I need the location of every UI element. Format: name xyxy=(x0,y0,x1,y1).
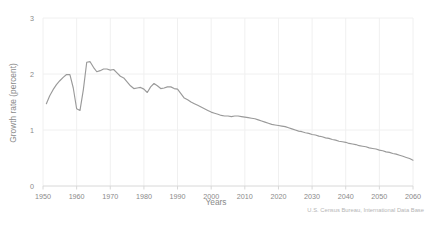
x-tick-label: 2040 xyxy=(338,192,354,201)
x-tick-label: 2060 xyxy=(405,192,421,201)
x-axis-title: Years xyxy=(205,197,226,207)
growth-rate-chart: 1950196019701980199020002010202020302040… xyxy=(0,0,432,225)
x-tick-label: 2010 xyxy=(237,192,253,201)
x-tick-label: 1990 xyxy=(170,192,186,201)
y-tick-label: 1 xyxy=(30,126,34,135)
x-tick-label: 1970 xyxy=(102,192,118,201)
tick-marks xyxy=(43,186,413,190)
y-tick-label: 2 xyxy=(30,70,34,79)
y-axis-title: Growth rate (percent) xyxy=(8,63,18,143)
gridlines xyxy=(43,18,413,186)
x-tick-label: 1980 xyxy=(136,192,152,201)
x-tick-label: 1950 xyxy=(35,192,51,201)
growth-rate-line xyxy=(46,62,413,161)
x-tick-label: 2050 xyxy=(371,192,387,201)
x-tick-label: 2020 xyxy=(270,192,286,201)
y-tick-labels: 0123 xyxy=(30,14,34,191)
x-tick-label: 1960 xyxy=(69,192,85,201)
source-attribution: U.S. Census Bureau, International Data B… xyxy=(307,207,424,213)
y-tick-label: 0 xyxy=(30,182,34,191)
x-tick-labels: 1950196019701980199020002010202020302040… xyxy=(35,192,421,201)
y-tick-label: 3 xyxy=(30,14,34,23)
x-tick-label: 2030 xyxy=(304,192,320,201)
chart-plot-area: 1950196019701980199020002010202020302040… xyxy=(0,0,432,225)
